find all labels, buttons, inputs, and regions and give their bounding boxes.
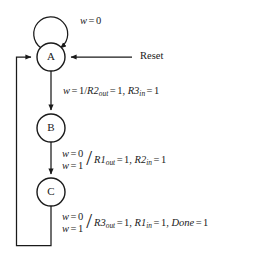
ca-cond-1-var: w: [62, 223, 69, 234]
ab-action-1-value: 1: [154, 85, 159, 96]
transition-arrow-c-to-a: [17, 57, 52, 246]
bc-comma-0: ,: [129, 154, 132, 165]
bc-slash: /: [83, 148, 94, 169]
bc-cond-0-var: w: [62, 148, 69, 159]
ab-action-1-subscript: in: [139, 89, 145, 98]
transition-label-c-to-a: w=0 w=1 / R3out=1, R1in=1, Done=1: [62, 211, 208, 235]
state-label-b: B: [47, 121, 54, 133]
ca-slash: /: [83, 211, 94, 232]
ca-action-0-subscript: out: [106, 221, 115, 230]
state-node-a[interactable]: A: [37, 43, 65, 71]
bc-condition-0: w=0: [62, 148, 83, 160]
reset-label: Reset: [140, 50, 163, 61]
bc-cond-1-var: w: [62, 160, 69, 171]
ab-action-0-op: =: [108, 85, 117, 96]
self-loop-var: w: [80, 15, 87, 26]
bc-conditions: w=0 w=1: [62, 148, 83, 172]
bc-action-1-signal: R2: [135, 154, 147, 165]
bc-cond-0-op: =: [69, 148, 78, 159]
ab-action-1-signal: R3: [128, 85, 140, 96]
bc-action-1-op: =: [152, 154, 161, 165]
self-loop-value: 0: [96, 15, 101, 26]
transition-label-b-to-c: w=0 w=1 / R1out=1, R2in=1: [62, 148, 166, 172]
ca-comma-0: ,: [129, 217, 132, 228]
ca-action-0-op: =: [115, 217, 124, 228]
ca-conditions: w=0 w=1: [62, 211, 83, 235]
self-loop-op: =: [87, 15, 96, 26]
ab-cond-var: w: [63, 85, 70, 96]
bc-cond-1-op: =: [69, 160, 78, 171]
ca-action-1-op: =: [152, 217, 161, 228]
transition-label-a-to-b: w=1/R2out=1, R3in=1: [63, 85, 159, 96]
ca-cond-0-op: =: [69, 211, 78, 222]
ca-action-0-signal: R3: [94, 217, 106, 228]
state-label-a: A: [47, 50, 55, 62]
ca-action-1-subscript: in: [146, 221, 152, 230]
ca-action-1-signal: R1: [135, 217, 147, 228]
ab-cond-op: =: [70, 85, 79, 96]
bc-action-0-subscript: out: [106, 158, 115, 167]
bc-action-0-op: =: [115, 154, 124, 165]
bc-action-1-subscript: in: [146, 158, 152, 167]
ca-actions: R3out=1, R1in=1, Done=1: [94, 217, 208, 228]
state-node-c[interactable]: C: [37, 178, 65, 206]
bc-condition-1: w=1: [62, 160, 83, 172]
ca-cond-1-op: =: [69, 223, 78, 234]
bc-action-1-value: 1: [161, 154, 166, 165]
ab-comma-0: ,: [122, 85, 125, 96]
ab-action-0-signal: R2: [87, 85, 99, 96]
state-diagram: A B C w=0 Reset w=1/R2out=1, R3in=1 w=0 …: [0, 0, 273, 256]
ca-action-2-value: 1: [203, 217, 208, 228]
ca-comma-1: ,: [166, 217, 169, 228]
ca-condition-0: w=0: [62, 211, 83, 223]
bc-action-0-signal: R1: [94, 154, 106, 165]
ca-action-2-op: =: [194, 217, 203, 228]
state-node-b[interactable]: B: [37, 114, 65, 142]
state-label-c: C: [47, 185, 54, 197]
ca-cond-0-var: w: [62, 211, 69, 222]
bc-actions: R1out=1, R2in=1: [94, 154, 166, 165]
ab-action-0-subscript: out: [99, 89, 108, 98]
self-loop-label: w=0: [80, 15, 101, 26]
ca-condition-1: w=1: [62, 223, 83, 235]
ab-action-1-op: =: [145, 85, 154, 96]
ca-action-2-signal: Done: [171, 217, 194, 228]
